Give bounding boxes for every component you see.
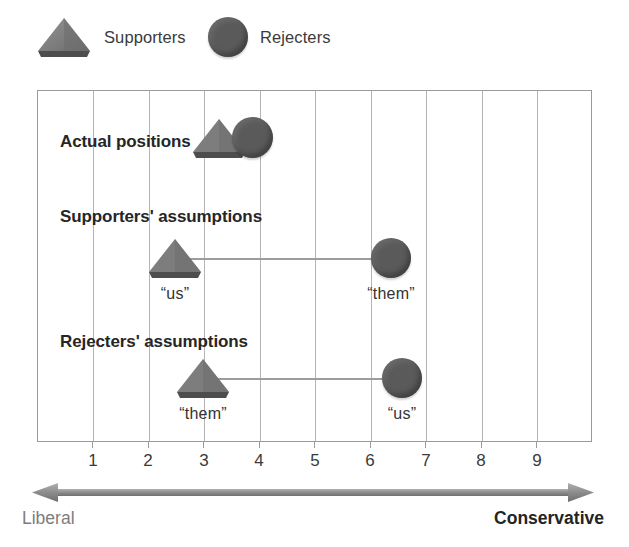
row-label-actual-positions: Actual positions: [60, 132, 191, 152]
tick-mark-6: [370, 442, 371, 448]
tick-label-4: 4: [254, 451, 263, 471]
legend-label-supporters: Supporters: [104, 28, 186, 47]
connector-supporters-assumptions: [175, 258, 391, 260]
legend-label-rejecters: Rejecters: [260, 28, 331, 47]
chart-legend: Supporters Rejecters: [36, 12, 596, 68]
point-label-rejecters-them: “them”: [179, 405, 226, 423]
axis-label-conservative: Conservative: [494, 508, 604, 529]
gridline-7: [426, 91, 427, 441]
tick-label-3: 3: [199, 451, 208, 471]
row-actual-rejecters-circle: [232, 117, 273, 158]
ideology-position-chart: Supporters Rejecters Actual positions: [0, 0, 629, 547]
spectrum-end-labels: Liberal Conservative: [22, 508, 604, 536]
row-supporters-assumption-us-triangle: [147, 237, 203, 279]
legend-item-supporters: Supporters: [36, 14, 186, 60]
connector-rejecters-assumptions: [203, 378, 402, 380]
ideology-spectrum-arrow: [32, 483, 594, 503]
point-label-supporters-them: “them”: [367, 285, 414, 303]
tick-mark-2: [148, 442, 149, 448]
tick-label-5: 5: [310, 451, 319, 471]
tick-label-2: 2: [143, 451, 152, 471]
tick-mark-3: [203, 442, 204, 448]
tick-label-1: 1: [88, 451, 97, 471]
point-label-supporters-us: “us”: [161, 285, 189, 303]
tick-label-6: 6: [365, 451, 374, 471]
gridline-9: [537, 91, 538, 441]
row-label-rejecters-assumptions: Rejecters' assumptions: [60, 332, 248, 352]
axis-label-liberal: Liberal: [22, 508, 75, 529]
tick-mark-7: [425, 442, 426, 448]
gridline-8: [482, 91, 483, 441]
row-supporters-assumption-them-circle: [371, 238, 411, 278]
tick-label-8: 8: [476, 451, 485, 471]
row-label-supporters-assumptions: Supporters' assumptions: [60, 207, 262, 227]
tick-mark-8: [481, 442, 482, 448]
plot-area: Actual positions Supporters' assumptions…: [37, 90, 592, 442]
tick-mark-5: [314, 442, 315, 448]
tick-label-9: 9: [532, 451, 541, 471]
tick-mark-1: [92, 442, 93, 448]
circle-marker-icon: [208, 17, 248, 57]
triangle-marker-icon: [36, 16, 92, 58]
point-label-rejecters-us: “us”: [388, 405, 416, 423]
legend-item-rejecters: Rejecters: [208, 14, 331, 60]
row-rejecters-assumption-them-triangle: [175, 357, 231, 399]
tick-mark-4: [259, 442, 260, 448]
row-rejecters-assumption-us-circle: [382, 358, 422, 398]
tick-label-7: 7: [421, 451, 430, 471]
gridline-5: [315, 91, 316, 441]
tick-mark-9: [536, 442, 537, 448]
